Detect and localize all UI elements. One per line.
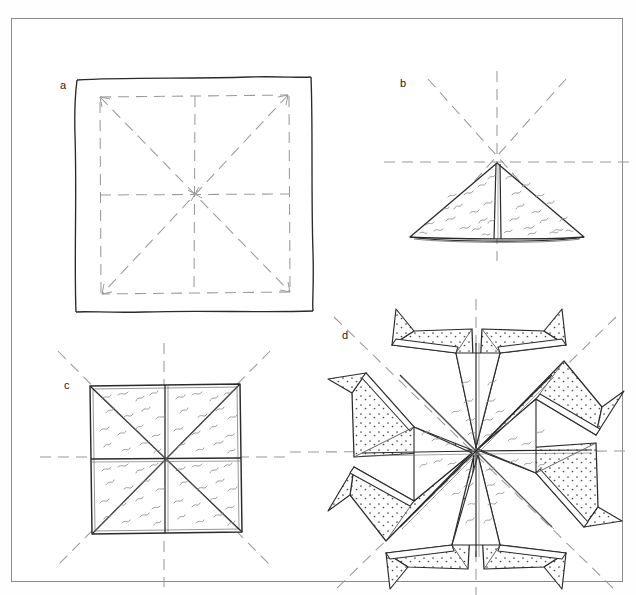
panel-c-square <box>90 384 242 534</box>
panel-a: a <box>52 63 332 329</box>
figure-root: a <box>0 0 636 595</box>
panel-c-label: c <box>64 379 70 391</box>
panel-d-core-petals <box>414 353 536 545</box>
panel-a-drawing <box>52 63 332 329</box>
panel-b-triangle <box>410 163 584 242</box>
figure-frame: a <box>11 18 623 582</box>
panel-b-drawing <box>384 63 632 285</box>
panel-d-label: d <box>342 329 348 341</box>
panel-a-label: a <box>60 79 66 91</box>
panel-d: d <box>296 295 632 595</box>
panel-b-label: b <box>400 77 406 89</box>
panel-c-drawing <box>40 343 292 591</box>
panel-c: c <box>40 343 292 591</box>
panel-b: b <box>384 63 632 285</box>
